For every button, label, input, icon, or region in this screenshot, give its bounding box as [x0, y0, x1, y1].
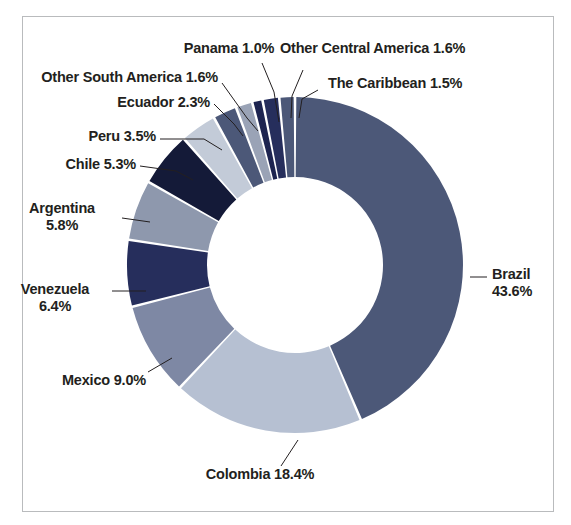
label-chile: Chile 5.3%	[0, 156, 136, 173]
leader-line-colombia	[281, 440, 298, 466]
donut-slices	[127, 97, 463, 433]
label-argentina-percent: 5.8%	[6, 217, 118, 234]
label-colombia: Colombia 18.4%	[170, 466, 350, 483]
label-panama-text: Panama 1.0%	[184, 40, 275, 56]
label-ecuador: Ecuador 2.3%	[0, 94, 210, 111]
label-other-south-america-text: Other South America 1.6%	[41, 69, 218, 85]
label-other-central-america-text: Other Central America 1.6%	[280, 40, 465, 56]
label-brazil-name: Brazil	[492, 266, 532, 283]
label-other-central-america: Other Central America 1.6%	[280, 40, 465, 57]
label-venezuela-name: Venezuela	[0, 281, 110, 298]
label-brazil-percent: 43.6%	[492, 283, 532, 300]
label-colombia-text: Colombia 18.4%	[206, 466, 314, 482]
label-the-caribbean-text: The Caribbean 1.5%	[328, 75, 462, 91]
label-peru: Peru 3.5%	[0, 128, 156, 145]
label-venezuela-percent: 6.4%	[0, 298, 110, 315]
label-mexico: Mexico 9.0%	[0, 372, 146, 389]
label-argentina-name: Argentina	[6, 200, 118, 217]
label-peru-text: Peru 3.5%	[88, 128, 156, 144]
label-the-caribbean: The Caribbean 1.5%	[328, 75, 462, 92]
label-ecuador-text: Ecuador 2.3%	[117, 94, 210, 110]
label-argentina: Argentina 5.8%	[6, 200, 118, 234]
label-other-south-america: Other South America 1.6%	[0, 69, 218, 86]
label-venezuela: Venezuela 6.4%	[0, 281, 110, 315]
chart-page: Panama 1.0% Other Central America 1.6% T…	[0, 0, 571, 525]
label-brazil: Brazil 43.6%	[492, 266, 532, 300]
label-chile-text: Chile 5.3%	[65, 156, 136, 172]
label-mexico-text: Mexico 9.0%	[62, 372, 146, 388]
